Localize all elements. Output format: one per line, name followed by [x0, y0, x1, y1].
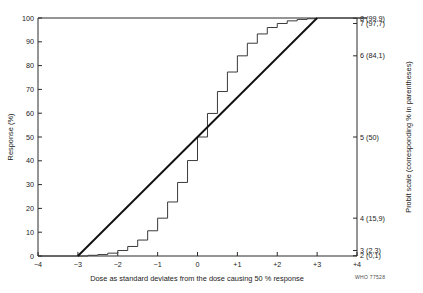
- x-tick-label: −3: [74, 260, 82, 269]
- y2-tick-label: 4 (15,9): [360, 214, 385, 223]
- y2-tick-label: 6 (84,1): [360, 51, 385, 60]
- x-tick-label: 0: [196, 260, 200, 269]
- x-tick-label: −4: [34, 260, 42, 269]
- y-tick-label: 70: [26, 85, 34, 94]
- y-tick-label: 100: [22, 14, 34, 23]
- y-tick-label: 30: [26, 180, 34, 189]
- probit-chart-figure: 0102030405060708090100 2 (0,1)3 (2,3)4 (…: [0, 0, 423, 293]
- y-tick-label: 20: [26, 204, 34, 213]
- y2-tick-label: 5 (50): [360, 133, 379, 142]
- y2-axis-title: Probit scale (corresponding % in parenth…: [404, 61, 413, 213]
- x-tick-label: −1: [154, 260, 162, 269]
- y-tick-label: 50: [26, 133, 34, 142]
- x-axis-title: Dose as standard deviates from the dose …: [90, 274, 304, 283]
- y-axis-ticks: 0102030405060708090100: [22, 14, 42, 261]
- y2-tick-label: 3 (2,3): [360, 246, 381, 255]
- chart-canvas: 0102030405060708090100 2 (0,1)3 (2,3)4 (…: [0, 0, 423, 293]
- response-ogive-staircase: [38, 18, 367, 256]
- x-tick-label: −2: [114, 260, 122, 269]
- y2-axis-ticks: 2 (0,1)3 (2,3)4 (15,9)5 (50)6 (84,1)7 (9…: [353, 14, 385, 261]
- probit-regression-line: [78, 18, 317, 256]
- y-tick-label: 10: [26, 228, 34, 237]
- x-tick-label: +3: [313, 260, 321, 269]
- y-axis-title: Response (%): [6, 114, 15, 161]
- figure-credit: WHO 77528: [355, 274, 385, 280]
- y-tick-label: 60: [26, 109, 34, 118]
- y-tick-label: 90: [26, 37, 34, 46]
- y-tick-label: 80: [26, 61, 34, 70]
- y-tick-label: 40: [26, 156, 34, 165]
- x-tick-label: +1: [233, 260, 241, 269]
- x-tick-label: +2: [273, 260, 281, 269]
- x-axis-ticks: −4−3−2−10+1+2+3+4: [34, 252, 361, 269]
- x-tick-label: +4: [353, 260, 361, 269]
